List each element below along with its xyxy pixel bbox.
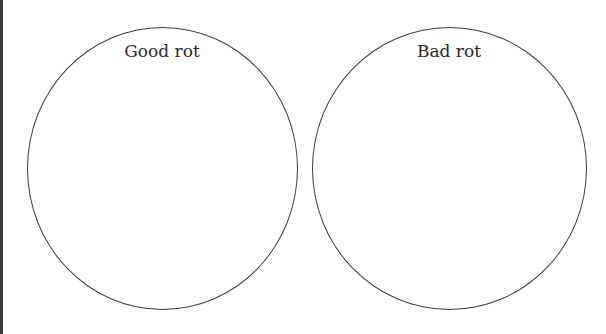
good-rot-circle [27,27,298,310]
bad-rot-label: Bad rot [349,41,549,61]
left-edge-bar [0,0,3,334]
bad-rot-circle [312,27,587,310]
good-rot-label: Good rot [62,41,262,61]
